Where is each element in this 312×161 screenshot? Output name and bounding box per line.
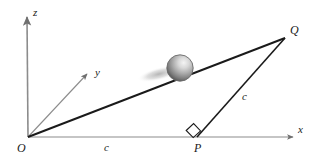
axis-z-label: z	[32, 6, 38, 18]
figure-canvas: z y x O P Q c c	[0, 0, 312, 161]
axis-y-label: y	[94, 66, 100, 78]
point-label-P: P	[193, 141, 202, 155]
point-label-O: O	[17, 141, 26, 155]
segment-OQ	[28, 38, 285, 137]
geometry-figure: z y x O P Q c c	[0, 0, 312, 161]
axis-z-line	[27, 17, 28, 137]
axis-y-line	[28, 74, 87, 137]
axis-y: y	[28, 66, 100, 137]
point-label-Q: Q	[290, 23, 299, 37]
sphere-on-line	[167, 55, 193, 81]
axis-x-label: x	[297, 123, 303, 135]
segment-label-PQ: c	[242, 90, 247, 102]
segment-label-OP: c	[104, 141, 109, 153]
axis-x: x	[28, 123, 303, 137]
segment-PQ	[197, 38, 285, 137]
axis-z: z	[27, 6, 38, 137]
